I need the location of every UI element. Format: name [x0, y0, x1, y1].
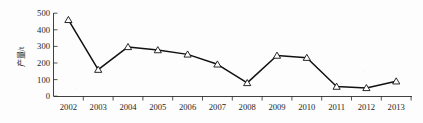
y-tick-label-300: 300	[37, 41, 50, 51]
x-tick-label-2004: 2004	[119, 102, 137, 112]
y-tick-label-500: 500	[37, 8, 50, 18]
line-chart-figure: 0 100 200 300 400 500 产量/t 2002 2003 200…	[0, 0, 423, 123]
x-tick-label-2009: 2009	[268, 102, 285, 112]
x-tick-label-2008: 2008	[239, 102, 256, 112]
y-tick-label-100: 100	[37, 75, 50, 85]
data-point-marker	[393, 78, 400, 84]
y-tick-label-200: 200	[37, 58, 50, 68]
x-tick-label-2003: 2003	[90, 102, 107, 112]
x-tick-marks	[83, 97, 411, 101]
chart-plot-area: 0 100 200 300 400 500 产量/t 2002 2003 200…	[0, 0, 423, 123]
x-tick-label-2010: 2010	[298, 102, 315, 112]
y-tick-label-0: 0	[46, 91, 50, 101]
x-tick-label-2005: 2005	[149, 102, 166, 112]
series-markers-group	[65, 16, 400, 90]
x-tick-label-2011: 2011	[328, 102, 345, 112]
series-line-production	[68, 20, 396, 88]
x-tick-label-2006: 2006	[179, 102, 197, 112]
x-tick-label-2007: 2007	[209, 102, 227, 112]
y-tick-marks	[54, 13, 58, 96]
x-tick-label-2013: 2013	[388, 102, 405, 112]
y-axis-title: 产量/t	[16, 46, 26, 67]
y-tick-label-400: 400	[37, 25, 50, 35]
data-point-marker	[65, 16, 72, 22]
x-tick-label-2002: 2002	[60, 102, 77, 112]
x-tick-label-2012: 2012	[358, 102, 375, 112]
